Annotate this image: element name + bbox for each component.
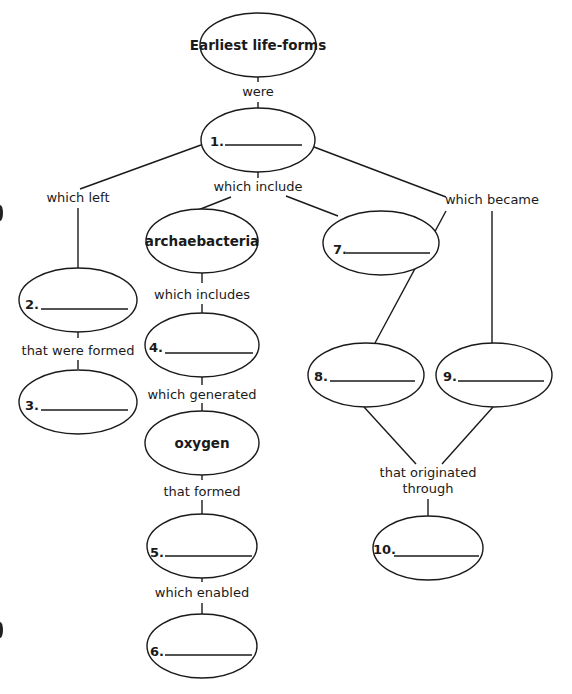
node-number: 6.: [150, 644, 164, 659]
node-number: 3.: [25, 398, 39, 413]
link-that-originated: that originated: [380, 465, 477, 480]
node-9-blank[interactable]: 9.: [436, 343, 552, 407]
link-which-generated: which generated: [147, 387, 256, 402]
node-6-blank[interactable]: 6.: [147, 614, 257, 678]
link-which-include: which include: [213, 179, 302, 194]
link-through: through: [402, 481, 453, 496]
node-number: 1.: [210, 134, 224, 149]
link-that-were-formed: that were formed: [22, 343, 135, 358]
node-10-blank[interactable]: 10.: [373, 516, 483, 580]
link-which-left: which left: [46, 190, 109, 205]
link-which-enabled: which enabled: [155, 585, 249, 600]
node-number: 2.: [25, 297, 39, 312]
node-label: oxygen: [174, 435, 229, 451]
node-earliest-life-forms: Earliest life-forms: [190, 13, 326, 77]
node-1-blank[interactable]: 1.: [201, 108, 315, 172]
node-archaebacteria: archaebacteria: [145, 209, 259, 273]
node-3-blank[interactable]: 3.: [19, 370, 137, 434]
link-that-formed: that formed: [163, 484, 240, 499]
node-number: 9.: [443, 369, 457, 384]
node-number: 5.: [150, 545, 164, 560]
binder-hole-mark: [0, 205, 3, 221]
link-were: were: [242, 84, 274, 99]
concept-map: Earliest life-forms were 1. which left w…: [0, 0, 572, 694]
binder-hole-mark: [0, 622, 3, 638]
link-which-includes: which includes: [154, 287, 250, 302]
node-label: Earliest life-forms: [190, 37, 326, 53]
link-which-became: which became: [445, 192, 539, 207]
node-5-blank[interactable]: 5.: [147, 514, 257, 578]
node-number: 4.: [149, 340, 163, 355]
node-label: archaebacteria: [145, 233, 259, 249]
node-8-blank[interactable]: 8.: [308, 343, 424, 407]
node-number: 7.: [333, 242, 347, 257]
node-number: 10.: [373, 542, 396, 557]
node-4-blank[interactable]: 4.: [145, 313, 259, 377]
node-2-blank[interactable]: 2.: [19, 268, 137, 332]
node-oxygen: oxygen: [145, 411, 259, 475]
node-7-blank[interactable]: 7.: [323, 211, 439, 275]
node-number: 8.: [314, 369, 328, 384]
